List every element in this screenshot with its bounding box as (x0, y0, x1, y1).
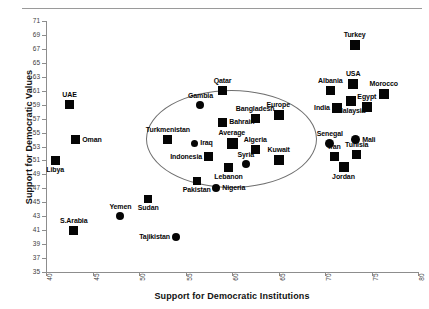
data-point-sudan (144, 195, 152, 203)
x-tick-label: 60 (232, 270, 239, 284)
data-point-lebanon (224, 163, 233, 172)
data-point-label: Lebanon (214, 173, 242, 181)
data-point-label: Indonesia (170, 153, 202, 161)
data-point-kuwait (274, 155, 284, 165)
data-point-libya (51, 156, 60, 165)
x-tick-label: 80 (418, 270, 425, 284)
y-tick-label: 35 (22, 268, 40, 275)
data-point-turkmenistan (163, 135, 172, 144)
data-point-average (227, 138, 238, 149)
data-point-tajikistan (172, 233, 180, 241)
data-point-uae (65, 100, 74, 109)
data-point-s-arabia (69, 226, 78, 235)
data-point-label: Turkmenistan (146, 126, 190, 134)
data-point-jordan (339, 162, 349, 172)
x-tick-label: 45 (93, 270, 100, 284)
data-point-label: Pakistan (183, 186, 211, 194)
data-point-yemen (116, 212, 124, 220)
data-point-label: Qatar (214, 77, 232, 85)
data-point-label: Algeria (244, 136, 267, 144)
data-point-malaysia (346, 96, 356, 106)
y-tick-label: 71 (22, 17, 40, 24)
data-point-label: Albania (318, 77, 343, 85)
data-point-label: Tunisia (345, 141, 368, 149)
data-point-label: Senegal (317, 130, 343, 138)
data-point-label: Libya (46, 166, 64, 174)
data-point-label: S.Arabia (60, 217, 88, 225)
data-point-algeria (251, 145, 260, 154)
data-point-label: Kuwait (268, 146, 290, 154)
data-point-label: Oman (82, 136, 101, 144)
data-point-usa (348, 79, 358, 89)
data-point-indonesia (204, 152, 213, 161)
data-point-oman (71, 135, 80, 144)
data-point-label: India (314, 104, 330, 112)
y-tick-label: 41 (22, 226, 40, 233)
data-point-label: Average (219, 129, 246, 137)
y-axis-title: Support for Democratic Values (24, 52, 34, 222)
data-point-label: Nigeria (222, 184, 245, 192)
data-point-label: Tajikistan (139, 233, 170, 241)
data-point-iran (330, 152, 339, 161)
data-point-label: Jordan (332, 173, 355, 181)
x-tick-label: 70 (325, 270, 332, 284)
data-point-qatar (218, 86, 227, 95)
x-tick-label: 55 (186, 270, 193, 284)
x-tick-label: 50 (139, 270, 146, 284)
data-point-label: Morocco (370, 80, 398, 88)
data-point-label: Yemen (109, 203, 131, 211)
data-point-label: UAE (62, 91, 76, 99)
header-divider (22, 8, 422, 9)
data-point-label: Iraq (200, 139, 212, 147)
data-point-bangladesh (251, 114, 260, 123)
data-point-pakistan (193, 177, 201, 185)
data-point-label: Egypt (357, 93, 376, 101)
data-point-label: Iran (328, 143, 340, 151)
y-tick-label: 39 (22, 240, 40, 247)
data-point-label: Sudan (138, 204, 159, 212)
x-tick-label: 75 (372, 270, 379, 284)
y-tick-label: 37 (22, 254, 40, 261)
data-point-label: USA (346, 70, 360, 78)
y-tick-label: 69 (22, 31, 40, 38)
data-point-label: Gambia (188, 92, 213, 100)
x-axis-title: Support for Democratic Institutions (46, 291, 418, 301)
data-point-europe (274, 110, 284, 120)
data-point-albania (326, 86, 335, 95)
data-point-label: Europe (267, 101, 291, 109)
data-point-tunisia (352, 150, 361, 159)
data-point-nigeria (212, 184, 220, 192)
plot-area: UAEOmanLibyaS.ArabiaYemenSudanTajikistan… (46, 21, 418, 272)
data-point-egypt (362, 102, 372, 112)
data-point-bahrain (218, 118, 227, 127)
data-point-syria (242, 160, 250, 168)
scatter-chart: 35373941434547495153555759616365676971 4… (0, 0, 429, 309)
data-point-label: Turkey (344, 31, 366, 39)
data-point-iraq (191, 140, 198, 147)
x-tick-label: 65 (279, 270, 286, 284)
y-tick-label: 67 (22, 45, 40, 52)
x-tick-label: 40 (46, 270, 53, 284)
data-point-morocco (379, 89, 389, 99)
data-point-turkey (350, 40, 360, 50)
